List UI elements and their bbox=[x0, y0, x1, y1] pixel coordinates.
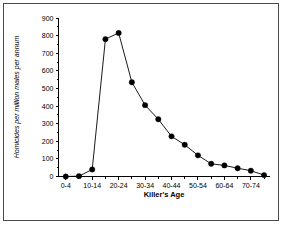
data-point-15-19 bbox=[103, 36, 108, 41]
data-point-45-49 bbox=[182, 142, 187, 147]
x-axis-group: 0-410-1420-2430-3440-4450-5460-6470-74 bbox=[59, 177, 271, 189]
y-tick-label-500: 500 bbox=[42, 85, 54, 92]
y-tick-label-0: 0 bbox=[50, 173, 54, 180]
data-point-60-64 bbox=[222, 163, 227, 168]
data-point-10-14 bbox=[90, 167, 95, 172]
y-tick-label-700: 700 bbox=[42, 50, 54, 57]
data-point-25-29 bbox=[129, 80, 134, 85]
data-point-50-54 bbox=[195, 153, 200, 158]
figure-border: 0100200300400500600700800900 0-410-1420-… bbox=[3, 3, 279, 221]
x-tick-label-20-24: 20-24 bbox=[110, 182, 128, 189]
data-point-0-4 bbox=[63, 174, 68, 179]
x-tick-label-30-34: 30-34 bbox=[136, 182, 154, 189]
data-point-75-79 bbox=[261, 172, 266, 177]
series-line-homicides bbox=[66, 33, 264, 177]
data-point-20-24 bbox=[116, 30, 121, 35]
y-tick-label-100: 100 bbox=[42, 155, 54, 162]
y-tick-label-800: 800 bbox=[42, 32, 54, 39]
y-tick-label-900: 900 bbox=[42, 15, 54, 22]
x-tick-label-60-64: 60-64 bbox=[215, 182, 233, 189]
x-axis-ticks bbox=[66, 177, 264, 181]
data-point-65-69 bbox=[235, 166, 240, 171]
x-tick-label-70-74: 70-74 bbox=[242, 182, 260, 189]
data-point-55-59 bbox=[208, 161, 213, 166]
data-point-40-44 bbox=[169, 134, 174, 139]
y-axis-group: 0100200300400500600700800900 bbox=[42, 15, 59, 181]
y-axis-title: Homicides per million males per annum bbox=[13, 36, 21, 159]
data-point-70-74 bbox=[248, 168, 253, 173]
data-point-30-34 bbox=[142, 102, 147, 107]
x-tick-label-40-44: 40-44 bbox=[163, 182, 181, 189]
data-point-35-39 bbox=[156, 117, 161, 122]
y-tick-label-400: 400 bbox=[42, 103, 54, 110]
x-axis-title: Killer's Age bbox=[144, 190, 185, 199]
x-tick-label-50-54: 50-54 bbox=[189, 182, 207, 189]
y-axis-tick-labels: 0100200300400500600700800900 bbox=[42, 15, 54, 181]
y-tick-label-600: 600 bbox=[42, 67, 54, 74]
chart-plot-area: 0100200300400500600700800900 0-410-1420-… bbox=[4, 4, 280, 222]
x-axis-tick-labels: 0-410-1420-2430-3440-4450-5460-6470-74 bbox=[61, 182, 260, 189]
x-tick-label-10-14: 10-14 bbox=[83, 182, 101, 189]
y-tick-label-200: 200 bbox=[42, 138, 54, 145]
x-tick-label-0-4: 0-4 bbox=[61, 182, 71, 189]
line-chart-svg: 0100200300400500600700800900 0-410-1420-… bbox=[4, 4, 280, 222]
y-tick-label-300: 300 bbox=[42, 120, 54, 127]
data-series-group bbox=[63, 30, 267, 179]
data-point-5-9 bbox=[76, 173, 81, 178]
